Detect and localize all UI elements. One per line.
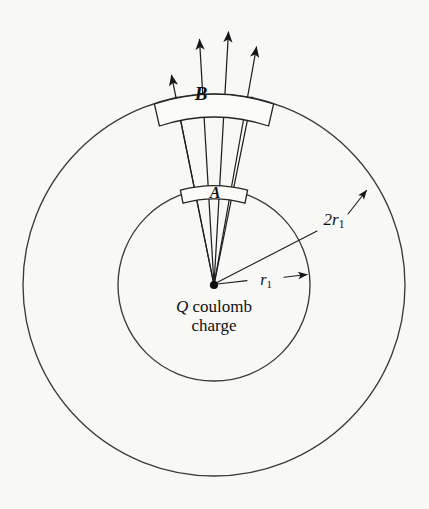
outer-radius-subscript: 1 (339, 218, 345, 231)
patch-b-band (154, 94, 273, 126)
outer-radius-label: 2r1 (324, 211, 345, 231)
diagram-canvas (0, 0, 429, 509)
inner-radius-label: r1 (260, 271, 272, 290)
field-line-rays (172, 32, 257, 285)
outer-radius-symbol: 2r (324, 210, 339, 229)
physics-diagram-figure: B A 2r1 r1 Q coulombcharge (0, 0, 429, 509)
point-charge-label: Q coulombcharge (176, 298, 252, 336)
charge-symbol: Q (176, 297, 188, 316)
outer-radius-dimension (217, 191, 367, 283)
inner-radius-subscript: 1 (266, 278, 271, 290)
charge-label-line-one: Q coulomb (176, 298, 252, 316)
patch-b-label: B (195, 84, 208, 105)
point-charge-dot (210, 281, 218, 289)
charge-label-line-two: charge (176, 317, 252, 335)
patch-a-label: A (210, 184, 221, 201)
charge-unit-text: coulomb (188, 297, 252, 316)
